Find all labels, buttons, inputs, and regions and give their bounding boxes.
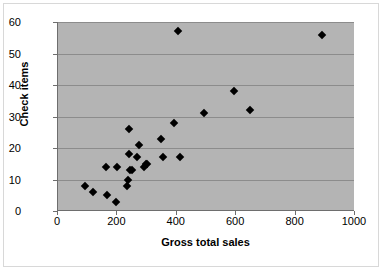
gridline-horizontal <box>58 22 354 23</box>
data-point <box>318 30 326 38</box>
data-point <box>101 163 109 171</box>
data-point <box>132 153 140 161</box>
data-point <box>157 134 165 142</box>
x-tick-label: 1000 <box>329 215 379 227</box>
scatter-chart-figure: 0102030405060 02004006008001000 Check it… <box>0 0 382 272</box>
data-point <box>103 191 111 199</box>
y-axis-label: Check items <box>18 34 30 154</box>
data-point <box>158 153 166 161</box>
x-tick-label: 600 <box>210 215 260 227</box>
y-tick-label: 0 <box>0 206 21 217</box>
y-tick-label: 10 <box>0 174 21 185</box>
x-tick-mark <box>295 211 296 215</box>
data-point <box>89 188 97 196</box>
gridline-horizontal <box>58 117 354 118</box>
x-axis-label: Gross total sales <box>57 236 354 248</box>
data-point <box>176 153 184 161</box>
plot-area <box>57 22 354 211</box>
data-point <box>80 182 88 190</box>
gridline-horizontal <box>58 180 354 181</box>
x-tick-mark <box>176 211 177 215</box>
data-point <box>170 119 178 127</box>
data-point <box>112 197 120 205</box>
gridline-horizontal <box>58 85 354 86</box>
gridline-horizontal <box>58 54 354 55</box>
data-point <box>124 150 132 158</box>
x-tick-label: 0 <box>32 215 82 227</box>
y-tick-label: 60 <box>0 17 21 28</box>
x-tick-label: 200 <box>91 215 141 227</box>
x-tick-label: 400 <box>151 215 201 227</box>
data-point <box>230 87 238 95</box>
x-tick-mark <box>57 211 58 215</box>
data-point <box>246 106 254 114</box>
x-tick-mark <box>235 211 236 215</box>
x-tick-label: 800 <box>270 215 320 227</box>
gridline-horizontal <box>58 148 354 149</box>
data-point <box>125 125 133 133</box>
data-point <box>113 163 121 171</box>
x-tick-mark <box>116 211 117 215</box>
x-tick-mark <box>354 211 355 215</box>
data-point <box>174 27 182 35</box>
